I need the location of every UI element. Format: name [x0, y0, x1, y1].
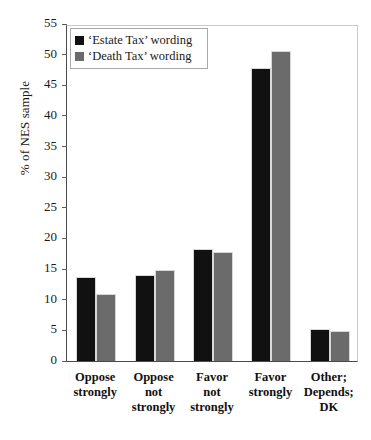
- bar[interactable]: [251, 68, 271, 361]
- bar[interactable]: [330, 331, 350, 361]
- y-axis-tick-mark: [62, 54, 67, 55]
- y-axis-tick-mark: [62, 146, 67, 147]
- y-axis-tick-label: 15: [23, 260, 57, 276]
- y-axis-tick-label: 10: [23, 291, 57, 307]
- bar[interactable]: [96, 294, 116, 361]
- x-axis-category-label-line: Depends;: [294, 385, 364, 400]
- y-axis-tick-mark: [62, 330, 67, 331]
- plot-area: 0510152025303540455055: [66, 25, 358, 362]
- bar[interactable]: [310, 329, 330, 361]
- y-axis-tick-label: 0: [23, 352, 57, 368]
- x-axis-category-label-line: Other;: [294, 370, 364, 385]
- bar-group: [76, 26, 116, 361]
- legend-item-label: ‘Estate Tax’ wording: [88, 33, 192, 48]
- legend-item-label: ‘Death Tax’ wording: [88, 49, 192, 64]
- y-axis-tick-mark: [62, 269, 67, 270]
- bar[interactable]: [135, 275, 155, 361]
- bar[interactable]: [155, 270, 175, 361]
- bar[interactable]: [76, 277, 96, 361]
- y-axis-tick-label: 30: [23, 168, 57, 184]
- y-axis-tick-mark: [62, 85, 67, 86]
- y-axis-tick-mark: [62, 207, 67, 208]
- y-axis-tick-label: 5: [23, 321, 57, 337]
- y-axis-tick-label: 25: [23, 199, 57, 215]
- y-axis-tick-label: 40: [23, 107, 57, 123]
- y-axis-tick-mark: [62, 177, 67, 178]
- y-axis-tick-mark: [62, 24, 67, 25]
- y-axis-tick-mark: [62, 115, 67, 116]
- legend-item[interactable]: ‘Estate Tax’ wording: [75, 32, 203, 48]
- y-axis-tick-label: 35: [23, 138, 57, 154]
- bar[interactable]: [193, 249, 213, 361]
- chart-legend: ‘Estate Tax’ wording‘Death Tax’ wording: [70, 28, 208, 69]
- bar-group: [310, 26, 350, 361]
- bar-chart: % of NES sample 0510152025303540455055 O…: [0, 0, 371, 440]
- x-axis-category-label: Other;Depends;DK: [294, 370, 364, 415]
- y-axis-tick-label: 45: [23, 76, 57, 92]
- legend-color-swatch: [75, 36, 84, 45]
- x-axis-category-label-line: strongly: [177, 400, 247, 415]
- legend-color-swatch: [75, 52, 84, 61]
- y-axis-tick-label: 20: [23, 229, 57, 245]
- bar[interactable]: [213, 252, 233, 361]
- y-axis-tick-mark: [62, 361, 67, 362]
- legend-item[interactable]: ‘Death Tax’ wording: [75, 48, 203, 64]
- bar-group: [135, 26, 175, 361]
- y-axis-tick-mark: [62, 238, 67, 239]
- y-axis-tick-label: 55: [23, 15, 57, 31]
- y-axis-tick-mark: [62, 299, 67, 300]
- bar-group: [251, 26, 291, 361]
- bar[interactable]: [271, 51, 291, 361]
- x-axis-category-label-line: DK: [294, 400, 364, 415]
- y-axis-tick-label: 50: [23, 46, 57, 62]
- bar-group: [193, 26, 233, 361]
